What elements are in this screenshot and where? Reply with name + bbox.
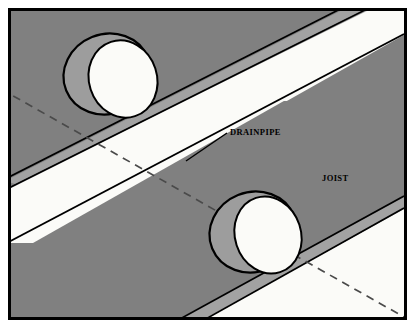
label-drainpipe: DRAINPIPE bbox=[230, 128, 281, 137]
joist-drainpipe-artwork bbox=[11, 11, 404, 317]
label-joist: JOIST bbox=[322, 174, 349, 183]
illustration-figure: DRAINPIPE JOIST bbox=[0, 0, 415, 328]
illustration-frame: DRAINPIPE JOIST bbox=[8, 8, 407, 320]
